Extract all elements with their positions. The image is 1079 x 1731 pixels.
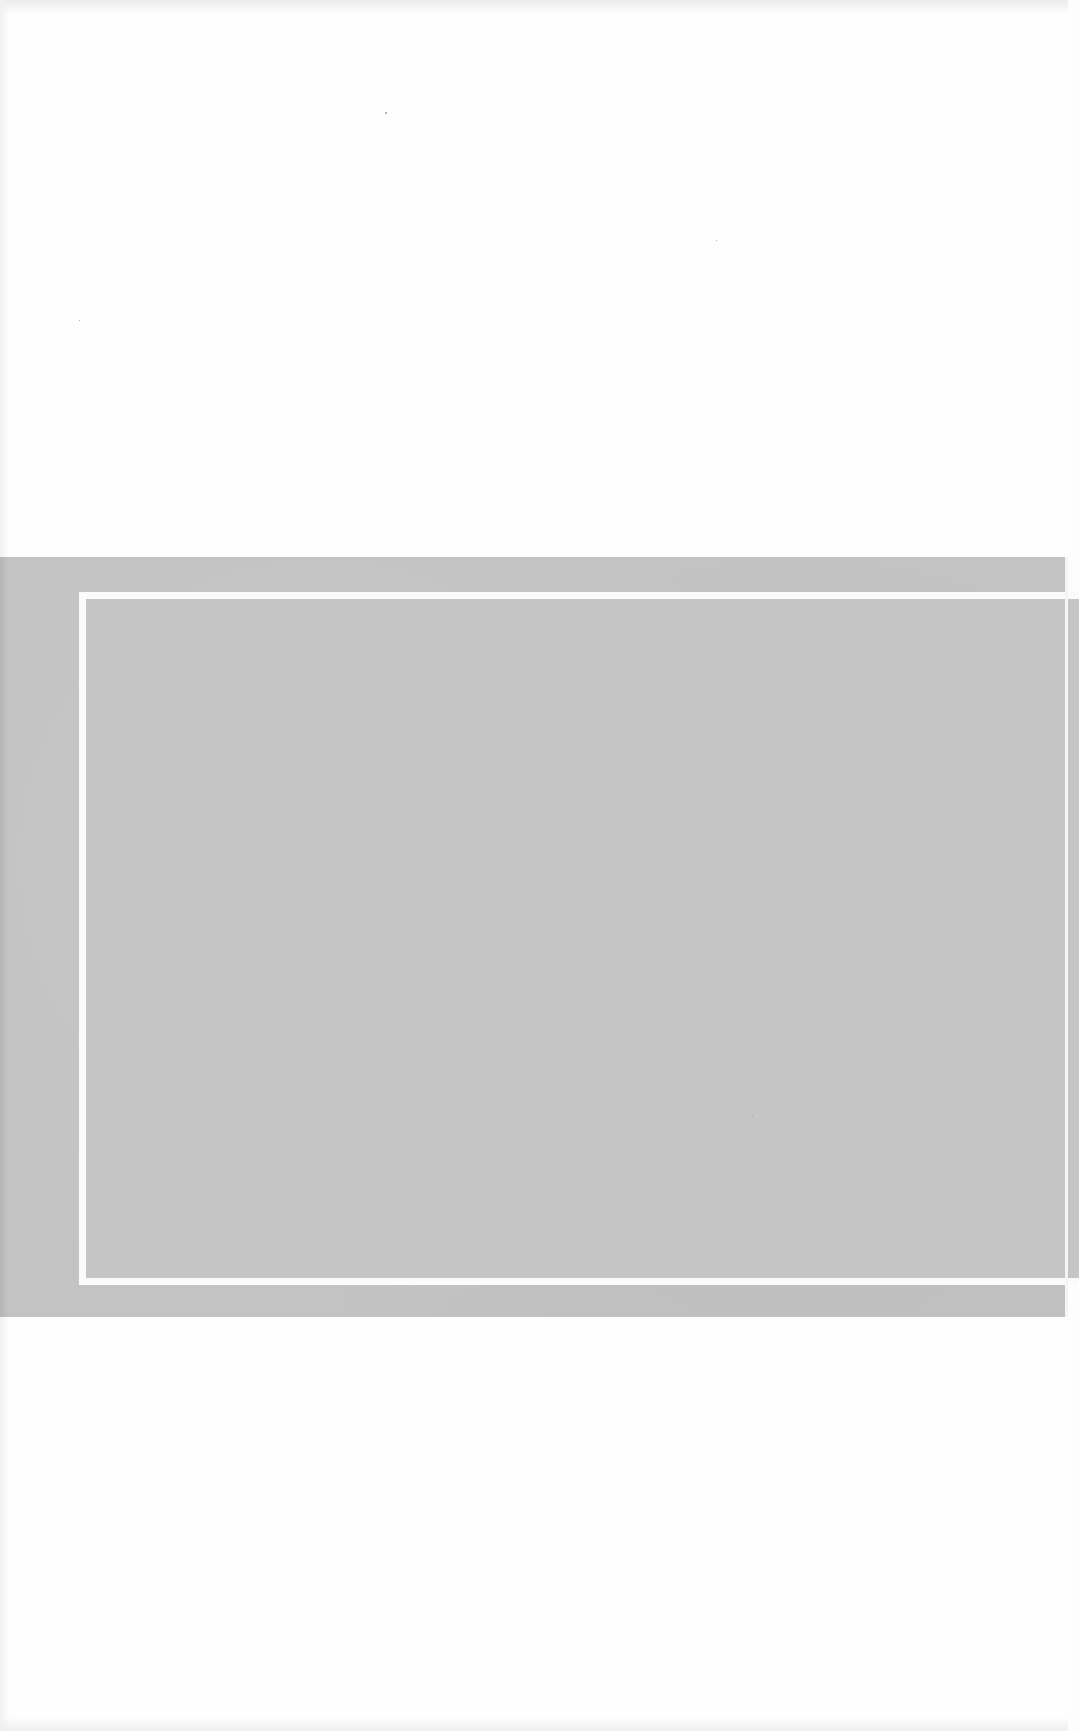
dust-speck	[752, 1115, 753, 1116]
dust-speck	[45, 1205, 46, 1206]
top-edge-shadow	[0, 0, 1068, 14]
dust-speck	[79, 320, 80, 321]
band-edge-shading	[0, 557, 8, 1317]
dust-speck	[716, 240, 717, 241]
dust-speck	[385, 112, 387, 114]
right-page-edge	[1065, 557, 1068, 1317]
gray-printed-band	[0, 557, 1068, 1317]
white-frame-border	[79, 592, 1079, 1285]
frame-interior	[86, 599, 1079, 1278]
bottom-edge-shadow	[0, 1717, 1068, 1731]
